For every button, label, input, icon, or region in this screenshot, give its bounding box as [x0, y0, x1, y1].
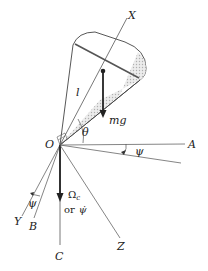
label-x: X [127, 9, 137, 22]
label-psi-bottom: ψ [28, 197, 37, 210]
label-mg: mg [109, 114, 126, 127]
label-l: l [76, 86, 80, 99]
label-z: Z [116, 240, 125, 253]
rotated-axis [60, 145, 181, 163]
label-o: O [45, 138, 54, 151]
label-theta: θ [82, 126, 89, 139]
label-omega-c: Ωc [68, 189, 80, 202]
label-b: B [28, 220, 37, 233]
a-axis [60, 144, 185, 145]
b-axis [34, 145, 60, 218]
label-y: Y [14, 215, 23, 228]
label-psi-top: ψ [135, 145, 144, 158]
gyroscope-diagram: X l mg θ O A ψ ψ Y B Ωc orψ̇ Z C [0, 0, 208, 271]
label-or-psidot: orψ̇ [64, 204, 87, 215]
label-a: A [187, 138, 196, 151]
label-c: C [55, 250, 64, 263]
